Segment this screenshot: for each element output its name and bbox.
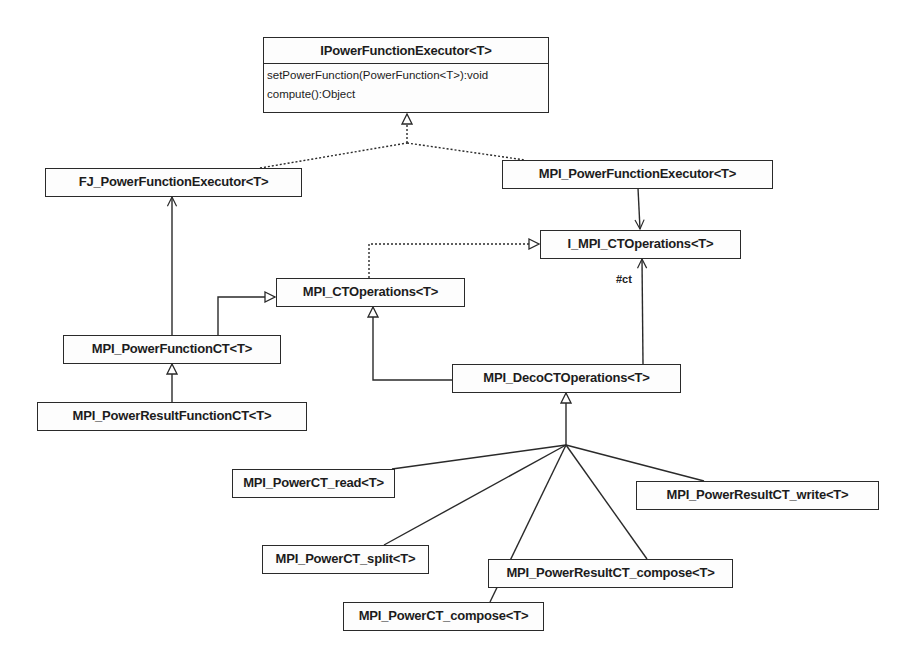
association-label-ct: #ct bbox=[616, 273, 632, 285]
class-i-mpi-ctoperations[interactable]: I_MPI_CTOperations<T> bbox=[540, 230, 741, 259]
association-ct bbox=[642, 259, 643, 364]
method-compute: compute():Object bbox=[267, 85, 545, 104]
realization-mpi-ctoperations bbox=[369, 244, 539, 278]
method-setpowerfunction: setPowerFunction(PowerFunction<T>):void bbox=[267, 66, 545, 85]
class-name: MPI_PowerCT_compose<T> bbox=[344, 603, 543, 628]
realization-fj-to-ipowerfunctionexecutor bbox=[260, 114, 407, 168]
class-name: MPI_PowerResultCT_compose<T> bbox=[489, 560, 732, 585]
class-name: MPI_PowerResultFunctionCT<T> bbox=[38, 403, 306, 428]
class-mpi-powerresultct-compose[interactable]: MPI_PowerResultCT_compose<T> bbox=[488, 559, 733, 588]
class-mpi-decoctoperations[interactable]: MPI_DecoCTOperations<T> bbox=[452, 364, 681, 393]
method-list: setPowerFunction(PowerFunction<T>):void … bbox=[264, 64, 548, 106]
class-name: IPowerFunctionExecutor<T> bbox=[264, 38, 548, 64]
uml-class-diagram: IPowerFunctionExecutor<T> setPowerFuncti… bbox=[0, 0, 913, 668]
class-mpi-powerresultct-write[interactable]: MPI_PowerResultCT_write<T> bbox=[636, 481, 879, 510]
class-name: MPI_PowerFunctionCT<T> bbox=[64, 336, 280, 361]
class-name: MPI_PowerResultCT_write<T> bbox=[637, 482, 878, 507]
class-fj-powerfunctionexecutor[interactable]: FJ_PowerFunctionExecutor<T> bbox=[45, 168, 302, 197]
class-mpi-powerfunctionct[interactable]: MPI_PowerFunctionCT<T> bbox=[63, 335, 281, 364]
class-name: MPI_PowerFunctionExecutor<T> bbox=[503, 161, 772, 186]
association-executor-to-ctoperations bbox=[638, 188, 640, 229]
class-ipowerfunctionexecutor[interactable]: IPowerFunctionExecutor<T> setPowerFuncti… bbox=[263, 37, 549, 113]
class-name: MPI_DecoCTOperations<T> bbox=[453, 365, 680, 390]
class-name: MPI_PowerCT_split<T> bbox=[263, 546, 428, 571]
class-mpi-powerct-read[interactable]: MPI_PowerCT_read<T> bbox=[232, 469, 395, 498]
class-name: I_MPI_CTOperations<T> bbox=[541, 231, 740, 256]
class-mpi-ctoperations[interactable]: MPI_CTOperations<T> bbox=[276, 278, 465, 307]
class-name: MPI_PowerCT_read<T> bbox=[233, 470, 394, 495]
realization-mpi-executor-to-ipowerfunctionexecutor bbox=[407, 143, 525, 160]
class-mpi-powerfunctionexecutor[interactable]: MPI_PowerFunctionExecutor<T> bbox=[502, 160, 773, 189]
generalization-powerfunctionct bbox=[218, 297, 275, 335]
generalization-decoctoperations bbox=[373, 307, 452, 380]
class-mpi-powerct-compose[interactable]: MPI_PowerCT_compose<T> bbox=[343, 602, 544, 631]
class-mpi-powerresultfunctionct[interactable]: MPI_PowerResultFunctionCT<T> bbox=[37, 402, 307, 431]
class-name: FJ_PowerFunctionExecutor<T> bbox=[46, 169, 301, 194]
class-name: MPI_CTOperations<T> bbox=[277, 279, 464, 304]
class-mpi-powerct-split[interactable]: MPI_PowerCT_split<T> bbox=[262, 545, 429, 574]
